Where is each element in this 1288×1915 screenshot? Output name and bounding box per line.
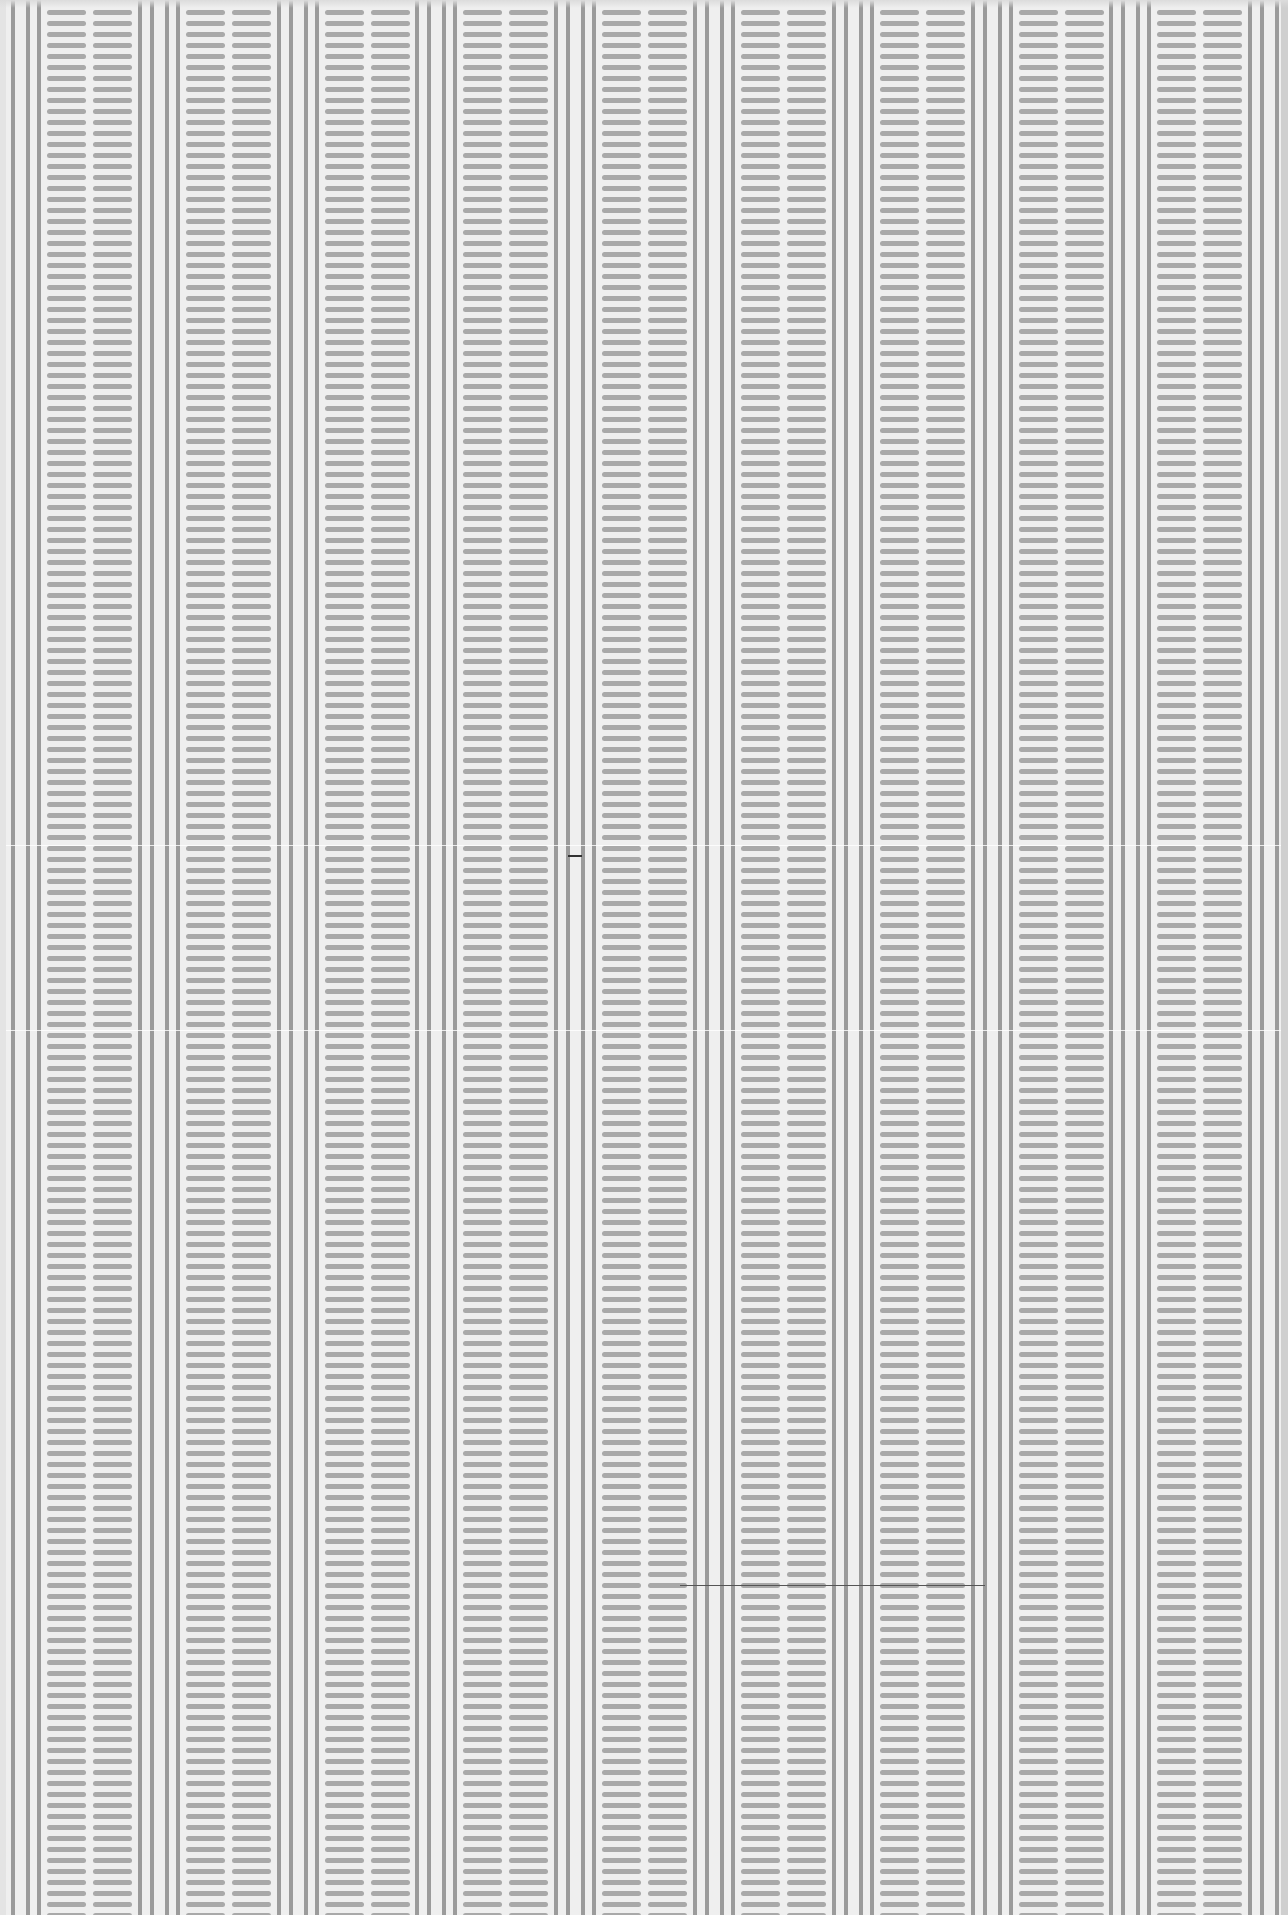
horizontal-dash [371,362,410,367]
horizontal-dash [186,1682,225,1687]
horizontal-dash [1065,626,1104,631]
horizontal-dash [1065,1011,1104,1016]
horizontal-dash [880,1737,919,1742]
horizontal-dash [787,1561,826,1566]
horizontal-dash [463,10,502,15]
horizontal-dash [648,780,687,785]
horizontal-dash [1203,604,1242,609]
horizontal-dash [463,1121,502,1126]
horizontal-dash [232,1198,271,1203]
horizontal-dash [232,395,271,400]
horizontal-dash [602,1869,641,1874]
horizontal-dash [325,956,364,961]
horizontal-dash [463,1044,502,1049]
horizontal-dash [648,967,687,972]
horizontal-dash [648,1847,687,1852]
horizontal-dash [93,1660,132,1665]
horizontal-dash [509,1099,548,1104]
horizontal-dash [371,956,410,961]
horizontal-dash [1203,362,1242,367]
horizontal-dash [93,714,132,719]
horizontal-dash [1157,406,1196,411]
horizontal-dash [509,1231,548,1236]
horizontal-dash [463,406,502,411]
horizontal-dash [787,164,826,169]
horizontal-dash [47,483,86,488]
horizontal-dash [926,406,965,411]
horizontal-dash [1019,131,1058,136]
horizontal-dash [93,1341,132,1346]
horizontal-dash [509,1814,548,1819]
horizontal-dash [232,1572,271,1577]
horizontal-dash [325,274,364,279]
horizontal-dash [1019,1671,1058,1676]
horizontal-dash [602,1715,641,1720]
horizontal-dash [880,692,919,697]
horizontal-dash [93,725,132,730]
horizontal-dash [186,1869,225,1874]
horizontal-dash [741,219,780,224]
horizontal-dash [648,417,687,422]
horizontal-dash [1065,1231,1104,1236]
horizontal-dash [926,1605,965,1610]
horizontal-dash [880,186,919,191]
horizontal-dash [509,274,548,279]
horizontal-dash [787,450,826,455]
horizontal-dash [47,329,86,334]
horizontal-dash [47,549,86,554]
horizontal-dash [325,54,364,59]
horizontal-dash [1157,615,1196,620]
horizontal-dash [1019,1297,1058,1302]
horizontal-dash [1203,1033,1242,1038]
horizontal-dash [186,1803,225,1808]
horizontal-dash [648,76,687,81]
horizontal-dash [926,857,965,862]
horizontal-dash [741,54,780,59]
horizontal-dash [93,1847,132,1852]
horizontal-dash [1065,417,1104,422]
horizontal-dash [741,318,780,323]
horizontal-dash [47,1396,86,1401]
horizontal-dash [880,1352,919,1357]
horizontal-dash [880,1759,919,1764]
horizontal-dash [880,1781,919,1786]
horizontal-dash [232,1539,271,1544]
horizontal-dash [1019,1165,1058,1170]
horizontal-dash [880,912,919,917]
horizontal-dash [880,1088,919,1093]
horizontal-dash [93,846,132,851]
horizontal-dash [1203,1077,1242,1082]
horizontal-dash [371,1341,410,1346]
horizontal-dash [93,1451,132,1456]
vertical-stripe [581,0,585,1915]
horizontal-dash [186,648,225,653]
horizontal-dash [463,1737,502,1742]
horizontal-dash [1019,626,1058,631]
dash-column [186,0,225,1915]
horizontal-dash [509,1528,548,1533]
horizontal-dash [371,1275,410,1280]
horizontal-dash [463,912,502,917]
horizontal-dash [371,1022,410,1027]
horizontal-dash [186,241,225,246]
horizontal-dash [926,1429,965,1434]
horizontal-dash [509,934,548,939]
horizontal-dash [926,417,965,422]
horizontal-dash [880,450,919,455]
horizontal-dash [93,439,132,444]
horizontal-dash [787,1352,826,1357]
horizontal-dash [232,1165,271,1170]
horizontal-dash [325,1253,364,1258]
horizontal-dash [47,32,86,37]
horizontal-dash [787,241,826,246]
horizontal-dash [1019,1253,1058,1258]
horizontal-dash [232,1341,271,1346]
horizontal-dash [787,1660,826,1665]
horizontal-dash [93,615,132,620]
horizontal-dash [371,1605,410,1610]
horizontal-dash [186,1286,225,1291]
horizontal-dash [880,1748,919,1753]
horizontal-dash [1157,351,1196,356]
horizontal-dash [509,571,548,576]
horizontal-dash [371,208,410,213]
